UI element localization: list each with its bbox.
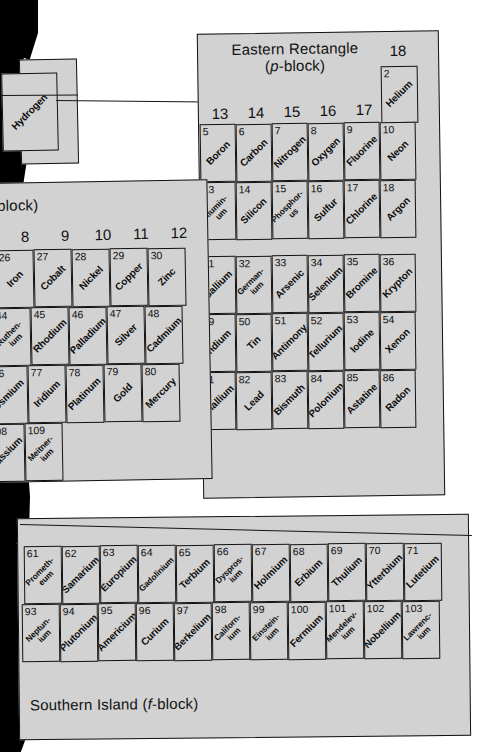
group-header-13: 13 xyxy=(203,105,237,122)
element-cell[interactable]: 30Zinc xyxy=(147,247,186,306)
element-cell[interactable]: 36Krypton xyxy=(380,253,417,311)
atomic-number: 101 xyxy=(329,602,347,614)
atomic-number: 71 xyxy=(407,544,419,556)
atomic-number: 45 xyxy=(34,309,46,321)
element-cell[interactable]: 8Oxygen xyxy=(308,122,345,180)
element-cell[interactable]: 16Sulfur xyxy=(308,180,345,238)
element-cell[interactable]: 100Fermium xyxy=(288,601,327,659)
element-cell[interactable]: 69Thulium xyxy=(328,543,367,601)
atomic-number: 95 xyxy=(101,604,113,616)
element-cell[interactable]: 47Silver xyxy=(106,306,145,365)
element-cell[interactable]: 70Ytterbium xyxy=(366,543,405,601)
atomic-number: 79 xyxy=(107,365,119,377)
atomic-number: 53 xyxy=(347,313,359,325)
element-cell[interactable]: 67Holmium xyxy=(252,544,291,602)
atomic-number: 78 xyxy=(69,366,81,378)
element-cell[interactable]: 98Californ- ium xyxy=(212,602,251,660)
element-cell[interactable]: 108Hassium xyxy=(0,424,26,483)
element-cell[interactable]: 99Einstein- ium xyxy=(250,602,289,660)
element-cell[interactable]: 96Curium xyxy=(136,603,175,661)
element-cell[interactable]: 53Iodine xyxy=(344,312,381,370)
element-cell[interactable]: 86Radon xyxy=(380,369,417,427)
group-header-17: 17 xyxy=(347,101,381,118)
element-cell[interactable]: 65Terbium xyxy=(176,544,215,602)
element-cell[interactable]: 63Europium xyxy=(100,545,139,603)
atomic-number: 98 xyxy=(215,603,227,615)
atomic-number: 51 xyxy=(275,314,287,326)
element-cell[interactable]: 35Bromine xyxy=(344,254,381,312)
element-cell[interactable]: 76Osmium xyxy=(0,366,29,425)
element-cell[interactable]: 7Nitrogen xyxy=(272,123,309,181)
group-header-8: 8 xyxy=(8,228,42,246)
element-cell[interactable]: 82Lead xyxy=(236,371,273,429)
element-cell[interactable]: 51Antimony xyxy=(272,313,309,371)
atomic-number: 10 xyxy=(383,123,395,135)
element-cell[interactable]: 95Americium xyxy=(98,603,137,661)
element-cell[interactable]: 68Erbium xyxy=(290,543,329,601)
d-block-title: -block) xyxy=(0,195,112,214)
element-cell[interactable]: 61Prometh- eum xyxy=(24,546,63,604)
element-cell[interactable]: 97Berkelium xyxy=(174,602,213,660)
atomic-number: 80 xyxy=(145,365,157,377)
element-cell[interactable]: 48Cadmium xyxy=(144,305,183,364)
atomic-number: 47 xyxy=(110,307,122,319)
element-cell[interactable]: 66Dyspros- ium xyxy=(214,544,253,602)
element-cell[interactable]: 9Fluorine xyxy=(344,122,381,180)
atomic-number: 32 xyxy=(239,257,251,269)
atomic-number: 103 xyxy=(405,601,423,613)
element-cell[interactable]: 45Rhodium xyxy=(30,307,69,366)
atomic-number: 65 xyxy=(179,546,191,558)
element-cell[interactable]: 18Argon xyxy=(380,179,417,237)
atomic-number: 102 xyxy=(367,602,385,614)
element-cell[interactable]: 26Iron xyxy=(0,250,35,309)
element-cell[interactable]: 46Palladium xyxy=(68,307,107,366)
element-cell[interactable]: 109Meitner- ium xyxy=(24,423,63,482)
element-cell[interactable]: 14Silicon xyxy=(236,181,273,239)
atomic-number: 93 xyxy=(25,605,37,617)
element-cell[interactable]: 84Polonium xyxy=(308,370,345,428)
element-cell[interactable]: 54Xenon xyxy=(380,311,417,369)
element-cell[interactable]: 71Lutetium xyxy=(404,542,443,600)
atomic-number: 28 xyxy=(75,250,87,262)
element-cell[interactable]: 77Iridium xyxy=(27,365,66,424)
group-header-12: 12 xyxy=(162,224,196,242)
element-cell[interactable]: 17Chlorine xyxy=(344,180,381,238)
element-cell[interactable]: 102Nobellium xyxy=(364,601,403,659)
element-cell[interactable]: 103Lawrenc- ium xyxy=(402,600,441,658)
element-cell[interactable]: 5Boron xyxy=(200,124,237,182)
element-cell[interactable]: 27Cobalt xyxy=(33,249,72,308)
element-cell[interactable]: 34Selenium xyxy=(308,254,345,312)
atomic-number: 36 xyxy=(383,255,395,267)
element-cell[interactable]: 10Neon xyxy=(380,121,417,179)
element-cell[interactable]: 93Neptun- ium xyxy=(22,604,61,662)
element-cell[interactable]: 101Mendelev- ium xyxy=(326,601,365,659)
element-cell[interactable]: 29Copper xyxy=(109,248,148,307)
element-cell[interactable]: 33Arsenic xyxy=(272,255,309,313)
p-block-title-line2: (p-block) xyxy=(205,56,385,76)
element-cell[interactable]: 28Nickel xyxy=(71,249,110,308)
element-cell[interactable]: 32German- ium xyxy=(236,255,273,313)
element-cell[interactable]: 62Samarium xyxy=(62,545,101,603)
element-cell[interactable]: 83Bismuth xyxy=(272,371,309,429)
group-header-11: 11 xyxy=(124,225,158,243)
element-cell[interactable]: 15Phosphor- us xyxy=(272,181,309,239)
element-cell-hydrogen[interactable]: Hydrogen xyxy=(1,72,59,151)
element-cell[interactable]: 94Plutonium xyxy=(60,603,99,661)
element-cell[interactable]: 64Gadolinium xyxy=(138,545,177,603)
atomic-number: 94 xyxy=(63,605,75,617)
group-header-16: 16 xyxy=(311,102,345,119)
atomic-number: 46 xyxy=(72,308,84,320)
element-name: Hydrogen xyxy=(2,73,58,150)
f-block-title: Southern Island (f-block) xyxy=(30,694,310,714)
element-cell[interactable]: 52Tellurium xyxy=(308,312,345,370)
element-cell[interactable]: 78Platinum xyxy=(65,365,104,424)
element-cell[interactable]: 50Tin xyxy=(236,313,273,371)
element-cell[interactable]: 85Astatine xyxy=(344,370,381,428)
atomic-number: 2 xyxy=(384,67,390,79)
element-cell[interactable]: 6Carbon xyxy=(236,123,273,181)
element-cell[interactable]: 44Ruthen- ium xyxy=(0,308,32,367)
element-cell[interactable]: 79Gold xyxy=(103,364,142,423)
element-cell[interactable]: 2 Helium xyxy=(381,66,419,124)
element-cell[interactable]: 80Mercury xyxy=(141,363,180,422)
atomic-number: 15 xyxy=(275,182,287,194)
